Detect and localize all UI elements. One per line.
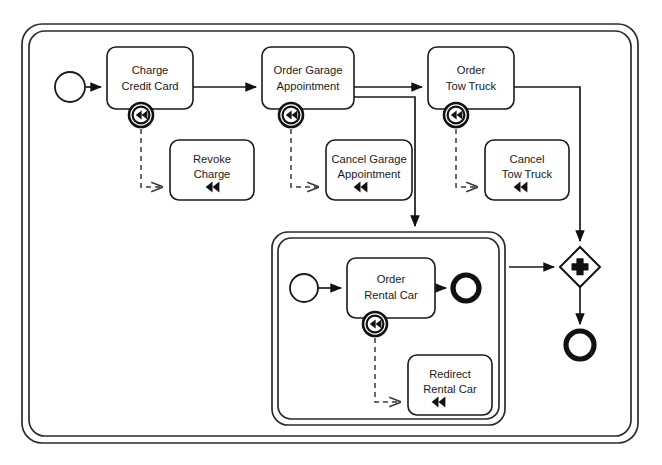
task-charge-credit-card-label-line2: Credit Card — [121, 80, 178, 92]
compensation-task-cancel-garage-appointment-label-line2: Appointment — [338, 168, 402, 180]
compensation-boundary-event-order-tow-truck[interactable] — [444, 103, 468, 127]
subprocess-start-event[interactable] — [290, 274, 318, 302]
compensation-task-revoke-charge-label-line2: Charge — [194, 168, 231, 180]
compensation-task-redirect-rental-car-label-line1: Redirect — [429, 368, 472, 380]
compensation-task-cancel-garage-appointment[interactable]: Cancel Garage Appointment — [326, 140, 412, 200]
compensation-task-cancel-tow-truck[interactable]: Cancel Tow Truck — [485, 140, 569, 200]
task-order-garage-appointment[interactable]: Order Garage Appointment — [262, 47, 354, 109]
compensation-boundary-event-charge-credit-card[interactable] — [129, 103, 153, 127]
subprocess-end-event[interactable] — [453, 275, 479, 301]
task-charge-credit-card[interactable]: Charge Credit Card — [107, 47, 193, 109]
task-order-rental-car-label-line2: Rental Car — [364, 289, 418, 301]
task-order-tow-truck[interactable]: Order Tow Truck — [428, 47, 514, 109]
compensation-task-revoke-charge[interactable]: Revoke Charge — [170, 140, 254, 200]
task-order-garage-appointment-label-line2: Appointment — [277, 80, 341, 92]
bpmn-diagram-root: Charge Credit Card Order Garage Appointm… — [0, 0, 662, 465]
compensation-task-revoke-charge-label-line1: Revoke — [193, 153, 231, 165]
compensation-boundary-event-order-rental-car[interactable] — [363, 312, 387, 336]
compensation-task-cancel-garage-appointment-label-line1: Cancel Garage — [331, 153, 406, 165]
end-event[interactable] — [566, 331, 594, 359]
task-order-tow-truck-label-line1: Order — [457, 64, 486, 76]
compensation-boundary-event-order-garage-appointment[interactable] — [279, 103, 303, 127]
task-order-garage-appointment-label-line1: Order Garage — [273, 64, 342, 76]
task-charge-credit-card-label-line1: Charge — [132, 64, 169, 76]
compensation-task-redirect-rental-car-label-line2: Rental Car — [423, 383, 477, 395]
start-event[interactable] — [55, 72, 85, 102]
compensation-task-cancel-tow-truck-label-line2: Tow Truck — [502, 168, 553, 180]
compensation-task-cancel-tow-truck-label-line1: Cancel — [510, 153, 545, 165]
task-order-tow-truck-label-line2: Tow Truck — [446, 80, 497, 92]
compensation-task-redirect-rental-car[interactable]: Redirect Rental Car — [408, 355, 492, 415]
bpmn-canvas: Charge Credit Card Order Garage Appointm… — [0, 0, 662, 465]
task-order-rental-car[interactable]: Order Rental Car — [347, 258, 435, 318]
task-order-rental-car-label-line1: Order — [377, 273, 406, 285]
